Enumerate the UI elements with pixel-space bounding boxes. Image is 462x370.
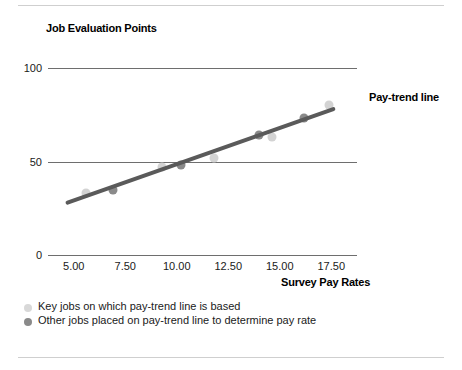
other-job-data-point bbox=[255, 131, 264, 140]
x-axis-tick-label: 17.50 bbox=[311, 260, 351, 272]
key-job-data-point bbox=[82, 189, 91, 198]
page-title: Job Evaluation Points bbox=[46, 22, 157, 34]
x-axis-title: Survey Pay Rates bbox=[281, 276, 370, 288]
key-job-data-point bbox=[267, 133, 276, 142]
plot-area bbox=[48, 68, 357, 255]
other-job-data-point bbox=[108, 185, 117, 194]
key-job-data-point bbox=[325, 101, 334, 110]
legend-item-key-jobs: Key jobs on which pay-trend line is base… bbox=[22, 300, 316, 314]
key-job-data-point bbox=[209, 153, 218, 162]
gridline-0 bbox=[48, 255, 357, 256]
figure-top-rule bbox=[18, 5, 444, 6]
x-axis-tick-label: 15.00 bbox=[260, 260, 300, 272]
x-axis-tick-label: 10.00 bbox=[157, 260, 197, 272]
y-axis-tick-label-0: 0 bbox=[4, 250, 42, 260]
key-job-data-point bbox=[158, 163, 167, 172]
gridline-100 bbox=[48, 68, 357, 69]
x-axis-tick-label: 12.50 bbox=[208, 260, 248, 272]
legend-item-label: Other jobs placed on pay-trend line to d… bbox=[38, 314, 316, 326]
gridline-50 bbox=[48, 162, 357, 163]
y-axis-tick-label-100: 100 bbox=[4, 63, 42, 73]
legend-item-other-jobs: Other jobs placed on pay-trend line to d… bbox=[22, 314, 316, 328]
other-job-data-point bbox=[300, 114, 309, 123]
x-axis-tick-label: 5.00 bbox=[54, 260, 94, 272]
figure-bottom-rule bbox=[18, 357, 444, 358]
x-axis-tick-label: 7.50 bbox=[105, 260, 145, 272]
key-job-dot-icon bbox=[24, 304, 32, 312]
legend-item-label: Key jobs on which pay-trend line is base… bbox=[38, 300, 240, 312]
pay-trend-line-label: Pay-trend line bbox=[369, 91, 439, 103]
other-job-data-point bbox=[176, 161, 185, 170]
y-axis-tick-label-50: 50 bbox=[4, 157, 42, 167]
other-job-dot-icon bbox=[24, 318, 32, 326]
chart-figure: Job Evaluation Points 100 50 0 5.007.501… bbox=[0, 0, 462, 370]
chart-legend: Key jobs on which pay-trend line is base… bbox=[22, 300, 316, 328]
